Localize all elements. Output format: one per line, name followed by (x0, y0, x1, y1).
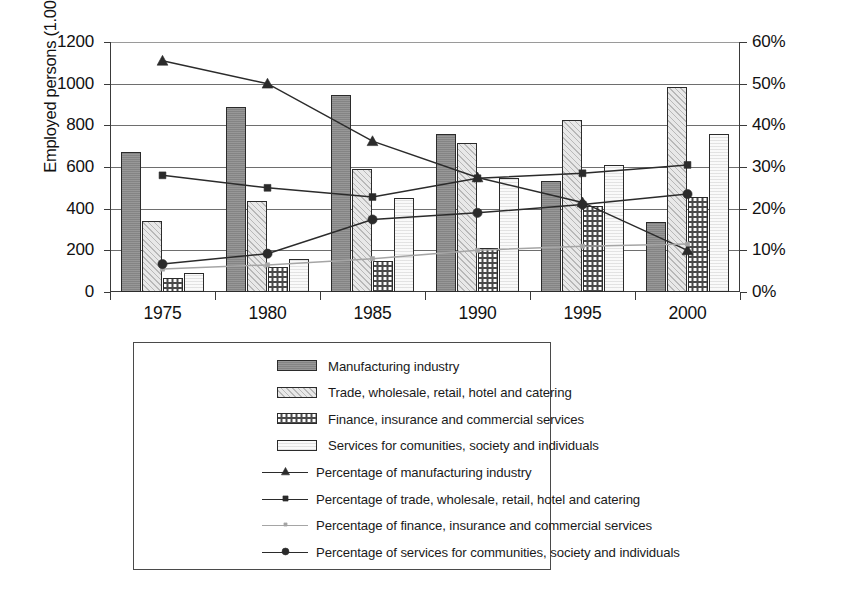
legend-line-key (262, 459, 308, 485)
legend-line-key (262, 486, 308, 512)
data-point-marker (369, 194, 376, 201)
x-axis-tick-mark (530, 292, 531, 300)
legend-item[interactable]: Percentage of trade, wholesale, retail, … (134, 486, 640, 512)
legend-item-label: Percentage of finance, insurance and com… (316, 518, 652, 533)
x-axis-tick-mark (740, 292, 741, 300)
data-point-marker (367, 136, 378, 146)
legend-item[interactable]: Trade, wholesale, retail, hotel and cate… (134, 380, 572, 406)
x-axis-tick-mark (635, 292, 636, 300)
legend-item-label: Percentage of trade, wholesale, retail, … (316, 492, 640, 507)
x-axis-tick-label: 1990 (425, 303, 530, 324)
x-axis-tick-mark (215, 292, 216, 300)
x-axis-tick-label: 1985 (320, 303, 425, 324)
x-axis-tick-mark (320, 292, 321, 300)
y-axis-left-tick-label: 400 (24, 200, 94, 217)
y-axis-right-tick-label: 20% (752, 200, 832, 217)
legend-item-label: Percentage of manufacturing industry (316, 465, 532, 480)
y-axis-right-tick-mark (740, 125, 747, 126)
x-axis-tick-label: 1975 (110, 303, 215, 324)
x-axis-tick-label: 2000 (635, 303, 740, 324)
data-point-marker (683, 189, 692, 198)
y-axis-left-tick-label: 600 (24, 158, 94, 175)
legend-swatch (274, 433, 320, 459)
data-point-marker (580, 244, 584, 248)
y-axis-right-tick-mark (740, 250, 747, 251)
legend-item[interactable]: Percentage of finance, insurance and com… (134, 513, 652, 539)
chart-legend: Manufacturing industryTrade, wholesale, … (133, 342, 551, 570)
data-point-marker (475, 248, 479, 252)
x-axis-tick-mark (110, 292, 111, 300)
legend-item-label: Services for comunities, society and ind… (328, 438, 599, 453)
data-point-marker (159, 172, 166, 179)
data-point-marker (474, 175, 481, 182)
legend-item-label: Percentage of services for communities, … (316, 545, 680, 560)
legend-line-key (262, 539, 308, 565)
y-axis-right-tick-mark (740, 84, 747, 85)
plot-area (110, 42, 740, 292)
legend-swatch (274, 353, 320, 379)
legend-item[interactable]: Percentage of services for communities, … (134, 539, 680, 565)
y-axis-right-tick-label: 60% (752, 33, 832, 50)
legend-item-label: Finance, insurance and commercial servic… (328, 412, 584, 427)
y-axis-right-tick-label: 30% (752, 158, 832, 175)
line-series-path (163, 61, 688, 251)
y-axis-right-tick-mark (740, 292, 747, 293)
y-axis-left-tick-label: 800 (24, 116, 94, 133)
y-axis-right-tick-mark (740, 42, 747, 43)
data-point-marker (473, 208, 482, 217)
y-axis-left-tick-label: 200 (24, 241, 94, 258)
legend-item[interactable]: Finance, insurance and commercial servic… (134, 406, 584, 432)
data-point-marker (281, 467, 289, 474)
data-point-marker (685, 242, 689, 246)
y-axis-right-tick-mark (740, 209, 747, 210)
data-point-marker (264, 184, 271, 191)
legend-key-marker (281, 494, 290, 503)
data-point-marker (283, 495, 288, 500)
lines-layer (110, 42, 740, 292)
y-axis-left-tick-label: 1000 (24, 75, 94, 92)
data-point-marker (684, 162, 691, 169)
data-point-marker (265, 263, 269, 267)
y-axis-left-tick-label: 0 (24, 283, 94, 300)
legend-item-label: Trade, wholesale, retail, hotel and cate… (328, 385, 572, 400)
data-point-marker (578, 200, 587, 209)
data-point-marker (368, 215, 377, 224)
data-point-marker (158, 259, 167, 268)
legend-swatch-box (277, 413, 317, 424)
x-axis-tick-label: 1995 (530, 303, 635, 324)
x-axis-tick-label: 1980 (215, 303, 320, 324)
legend-key-marker (281, 547, 290, 556)
y-axis-left-tick-label: 1200 (24, 33, 94, 50)
data-point-marker (157, 55, 168, 65)
legend-swatch (274, 380, 320, 406)
legend-key-marker (281, 467, 290, 476)
legend-item[interactable]: Percentage of manufacturing industry (134, 459, 532, 485)
data-point-marker (282, 548, 289, 555)
data-point-marker (370, 257, 374, 261)
legend-item-label: Manufacturing industry (328, 359, 459, 374)
legend-swatch (274, 406, 320, 432)
legend-swatch-box (277, 360, 317, 371)
data-point-marker (284, 523, 287, 526)
employment-chart-figure: Employed persons (1.000) 120010008006004… (0, 0, 842, 604)
legend-item[interactable]: Services for comunities, society and ind… (134, 433, 599, 459)
line-series-path (163, 194, 688, 264)
x-axis-labels: 197519801985199019952000 (110, 303, 740, 329)
legend-swatch-box (277, 387, 317, 398)
legend-key-marker (281, 520, 290, 529)
line-series-path (163, 165, 688, 197)
x-axis-tick-mark (425, 292, 426, 300)
x-axis-ticks (110, 292, 740, 300)
y-axis-right-tick-label: 10% (752, 241, 832, 258)
y-axis-right-tick-label: 50% (752, 75, 832, 92)
y-axis-right-tick-mark (740, 167, 747, 168)
data-point-marker (263, 249, 272, 258)
data-point-marker (579, 170, 586, 177)
y-axis-right-tick-label: 40% (752, 116, 832, 133)
y-axis-right-tick-label: 0% (752, 283, 832, 300)
legend-swatch-box (277, 440, 317, 451)
legend-line-key (262, 513, 308, 539)
legend-item[interactable]: Manufacturing industry (134, 353, 459, 379)
